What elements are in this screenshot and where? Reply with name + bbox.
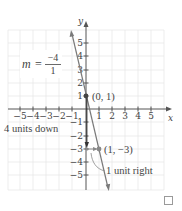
- coordinate-plane: x y −5 −4 −3 −2 −1 1 2 3 4 5 5 4 3 2 1 −…: [0, 0, 182, 211]
- x-tick-labels: −5 −4 −3 −2 −1 1 2 3 4 5: [13, 111, 154, 121]
- svg-text:3: 3: [122, 111, 128, 121]
- svg-text:−3: −3: [39, 111, 53, 121]
- svg-text:4: 4: [135, 111, 141, 121]
- slope-annotation: m = −4 1: [20, 50, 62, 78]
- svg-text:−3: −3: [70, 144, 84, 154]
- svg-text:5: 5: [148, 111, 154, 121]
- slope-numerator: −4: [48, 52, 59, 63]
- svg-text:−1: −1: [70, 117, 83, 127]
- point-label-1-neg3: (1, −3): [104, 144, 133, 156]
- svg-text:−4: −4: [26, 111, 40, 121]
- svg-text:1: 1: [77, 91, 83, 101]
- y-axis-label: y: [77, 16, 84, 26]
- slope-variable: m: [22, 57, 31, 71]
- point-1-neg3: [97, 147, 102, 152]
- rise-label: 4 units down: [4, 123, 59, 134]
- svg-text:1: 1: [96, 111, 102, 121]
- run-arrow: [88, 147, 98, 151]
- checkbox-icon[interactable]: [164, 196, 173, 205]
- svg-text:−2: −2: [52, 111, 65, 121]
- slope-denominator: 1: [51, 65, 56, 76]
- slope-equals: =: [35, 57, 42, 71]
- svg-text:−4: −4: [70, 157, 84, 167]
- point-0-1: [84, 94, 89, 99]
- svg-text:5: 5: [77, 38, 83, 48]
- svg-text:−5: −5: [13, 111, 27, 121]
- svg-text:−5: −5: [70, 170, 84, 180]
- svg-text:−2: −2: [70, 131, 83, 141]
- point-0-neg3: [85, 147, 88, 150]
- x-axis-arrow-icon: [166, 107, 172, 112]
- run-label: 1 unit right: [106, 165, 153, 176]
- x-axis-label: x: [168, 113, 173, 123]
- svg-text:2: 2: [109, 111, 115, 121]
- y-axis-arrow-icon: [84, 21, 89, 27]
- rise-arrowhead-icon: [85, 142, 89, 148]
- point-label-0-1: (0, 1): [92, 91, 115, 103]
